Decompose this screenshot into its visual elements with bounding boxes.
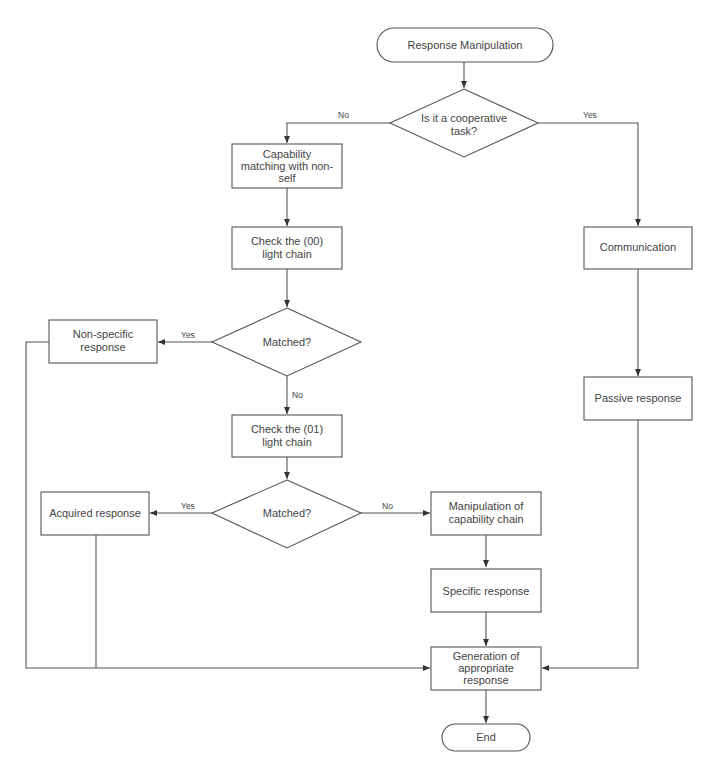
generation-label-line1: Generation of — [453, 650, 521, 662]
check-00-label-line1: Check the (00) — [251, 235, 323, 247]
node-check-01: Check the (01) light chain — [232, 415, 342, 457]
node-start: Response Manipulation — [377, 28, 553, 62]
label-matched1-no: No — [292, 390, 303, 400]
specific-label: Specific response — [443, 585, 530, 597]
passive-label: Passive response — [595, 392, 682, 404]
start-label: Response Manipulation — [408, 39, 523, 51]
check-00-label-line2: light chain — [262, 248, 312, 260]
label-matched2-no: No — [382, 501, 393, 511]
manipulation-label-line1: Manipulation of — [449, 500, 525, 512]
matched-1-label: Matched? — [263, 336, 311, 348]
node-generation: Generation of appropriate response — [431, 647, 541, 690]
node-capability-matching: Capability matching with non- self — [232, 144, 342, 188]
acquired-label: Acquired response — [49, 507, 141, 519]
node-matched-1: Matched? — [212, 308, 361, 376]
node-specific: Specific response — [431, 569, 541, 612]
node-end: End — [442, 724, 530, 751]
node-passive: Passive response — [584, 377, 692, 420]
generation-label-line3: response — [463, 674, 508, 686]
end-label: End — [476, 731, 496, 743]
edge-cooperative-yes — [538, 123, 638, 226]
edge-cooperative-no — [287, 123, 390, 143]
capability-label-line1: Capability — [263, 148, 312, 160]
cooperative-label-line1: Is it a cooperative — [421, 112, 507, 124]
node-acquired: Acquired response — [41, 492, 149, 535]
node-matched-2: Matched? — [212, 480, 361, 548]
capability-label-line2: matching with non- — [241, 160, 334, 172]
label-matched1-yes: Yes — [181, 330, 195, 340]
cooperative-label-line2: task? — [451, 125, 477, 137]
check-01-label-line2: light chain — [262, 436, 312, 448]
check-01-label-line1: Check the (01) — [251, 423, 323, 435]
manipulation-label-line2: capability chain — [448, 513, 523, 525]
edge-passive-to-generation — [542, 420, 638, 668]
label-cooperative-no: No — [338, 110, 349, 120]
node-manipulation: Manipulation of capability chain — [431, 492, 541, 535]
node-check-00: Check the (00) light chain — [232, 227, 342, 269]
communication-label: Communication — [600, 241, 676, 253]
non-specific-label-line2: response — [80, 341, 125, 353]
non-specific-label-line1: Non-specific — [73, 328, 134, 340]
node-non-specific: Non-specific response — [49, 320, 157, 363]
flowchart-canvas: No Yes Yes No Yes No Response Manipulati… — [0, 0, 717, 773]
node-cooperative-decision: Is it a cooperative task? — [390, 89, 538, 157]
node-communication: Communication — [584, 227, 692, 269]
matched-2-label: Matched? — [263, 507, 311, 519]
capability-label-line3: self — [278, 172, 296, 184]
generation-label-line2: appropriate — [458, 662, 514, 674]
label-matched2-yes: Yes — [181, 501, 195, 511]
label-cooperative-yes: Yes — [583, 110, 597, 120]
